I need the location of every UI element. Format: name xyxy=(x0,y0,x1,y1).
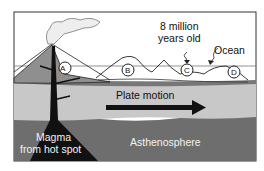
island-label-d: D xyxy=(231,67,237,78)
magma-label-line1: Magma xyxy=(36,132,71,143)
plate-motion-label: Plate motion xyxy=(116,90,174,101)
ocean-label: Ocean xyxy=(214,45,245,56)
island-label-a: A xyxy=(60,63,65,74)
island-label-c: C xyxy=(184,65,190,76)
asthenosphere-label: Asthenosphere xyxy=(130,137,201,148)
age-label-line2: years old xyxy=(158,33,201,44)
island-label-b: B xyxy=(125,65,130,76)
plate-motion-arrow xyxy=(106,105,196,110)
age-label-line1: 8 million xyxy=(160,21,199,32)
magma-label-line2: from hot spot xyxy=(20,144,81,155)
